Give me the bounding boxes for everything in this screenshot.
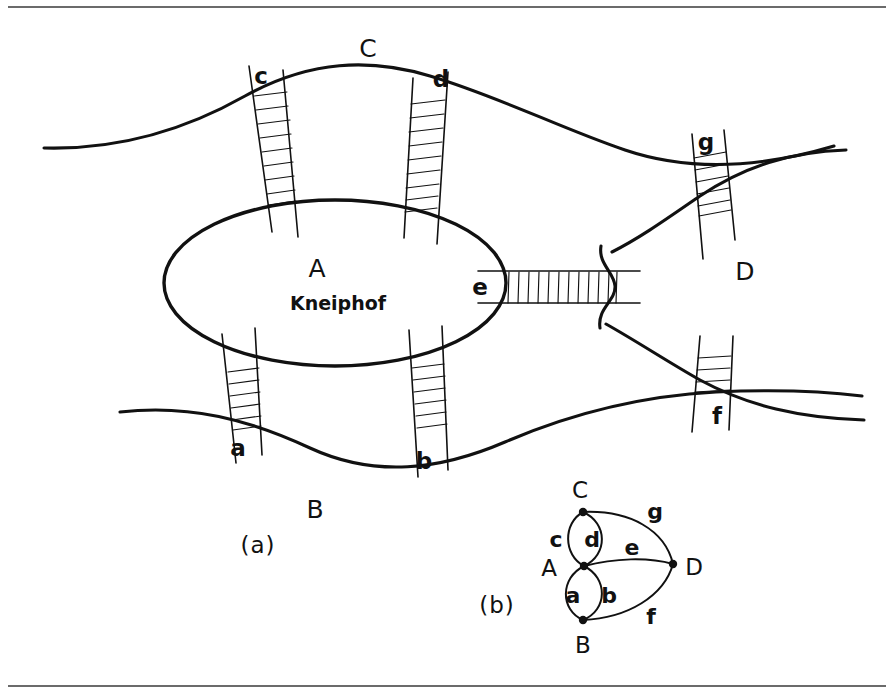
map-north-bank xyxy=(44,65,846,252)
graph-node-label-B: B xyxy=(575,634,591,657)
graph-node-D xyxy=(669,560,677,568)
graph-edge-label-a: a xyxy=(566,585,581,607)
map-bridge-label-d: d xyxy=(433,68,449,91)
map-bridge-label-a: a xyxy=(230,437,246,460)
island-kneiphof-outline xyxy=(164,200,506,366)
graph-node-label-A: A xyxy=(541,557,557,580)
graph-node-label-D: D xyxy=(685,556,703,579)
graph-edge-label-f: f xyxy=(646,606,656,628)
map-bridge-label-b: b xyxy=(416,450,432,473)
graph-edge-c xyxy=(568,512,584,566)
panel-caption-b: (b) xyxy=(479,594,515,617)
graph-node-label-C: C xyxy=(572,479,588,502)
figure-artwork xyxy=(0,0,894,691)
graph-node-B xyxy=(579,616,587,624)
figure-container: A Kneiphof B C D c d g e a b f (a) (b) A… xyxy=(0,0,894,691)
map-bridge-label-g: g xyxy=(698,131,714,154)
graph-edge-b xyxy=(583,566,602,620)
graph-nodes xyxy=(579,508,677,624)
graph-node-C xyxy=(579,508,587,516)
graph-node-A xyxy=(580,562,588,570)
graph-edge-label-g: g xyxy=(647,501,663,523)
map-bridge-label-e: e xyxy=(472,276,488,299)
map-bridge-label-c: c xyxy=(254,65,268,88)
map-channel-edges xyxy=(600,246,615,328)
map-region-label-A: A xyxy=(308,256,325,281)
graph-edge-e xyxy=(584,559,673,566)
map-region-label-D: D xyxy=(735,259,754,284)
graph-edge-label-e: e xyxy=(625,537,640,559)
panel-caption-a: (a) xyxy=(240,534,275,557)
map-bridge-label-f: f xyxy=(712,405,722,428)
graph-edge-f xyxy=(583,564,673,620)
island-name-label: Kneiphof xyxy=(290,294,386,313)
graph-edge-label-b: b xyxy=(601,585,617,607)
map-region-label-C: C xyxy=(359,36,376,61)
map-region-label-B: B xyxy=(306,497,323,522)
graph-edge-label-d: d xyxy=(584,529,600,551)
graph-edge-label-c: c xyxy=(549,529,562,551)
